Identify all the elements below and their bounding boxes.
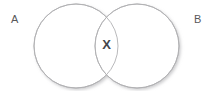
intersection-marker: X: [100, 38, 113, 52]
set-b-label: B: [194, 14, 202, 25]
set-a-label: A: [11, 14, 19, 25]
venn-diagram: A B X: [0, 0, 213, 91]
